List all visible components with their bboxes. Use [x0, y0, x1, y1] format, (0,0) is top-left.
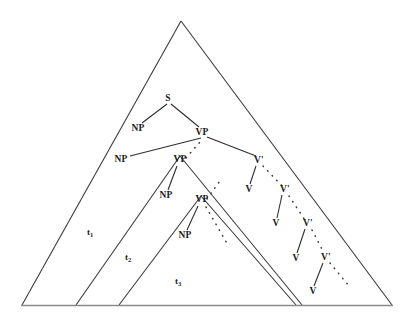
node-label-np4: NP	[178, 231, 191, 241]
stage-label-t2: t2	[125, 253, 131, 262]
syntax-tree-figure: S NP VP NP VP NP VP NP V' V V' V V' V V'…	[0, 0, 417, 326]
stage-label-t3: t3	[175, 277, 181, 286]
dots-vbar3-vbar4	[312, 230, 324, 253]
edge-vbar2-v2	[277, 195, 282, 218]
node-label-vbar2: V'	[280, 185, 290, 195]
inner-triangle-right-edge	[201, 196, 296, 305]
inner-triangle	[119, 196, 296, 305]
node-label-vbar3: V'	[303, 219, 313, 229]
edge-vbar4-v4	[314, 263, 323, 286]
stage-label-t1: t1	[87, 228, 93, 237]
node-label-vp3: VP	[195, 195, 208, 205]
edge-vp1-vbar1	[207, 137, 256, 156]
stage-label-t1-sub: 1	[90, 231, 93, 238]
edge-vp3-np4	[187, 206, 198, 230]
node-label-np2: NP	[114, 155, 127, 165]
node-label-v4: V	[309, 287, 316, 297]
outer-triangle-left-edge	[22, 21, 181, 305]
edge-vbar3-v3	[297, 229, 305, 253]
node-label-vbar1: V'	[254, 156, 264, 166]
dots-vbar4-trail	[330, 263, 349, 286]
outer-triangle-right-edge	[181, 21, 392, 305]
middle-triangle-right-edge	[180, 156, 302, 305]
dots-vbar1-vbar2	[263, 166, 282, 186]
inner-triangle-left-edge	[119, 196, 201, 305]
dots-vp2-vp3	[207, 178, 222, 199]
dots-vbar2-vbar3	[289, 196, 305, 220]
node-label-s: S	[165, 94, 170, 104]
node-label-np1: NP	[131, 124, 144, 134]
edge-s-vp1	[171, 104, 199, 127]
dots-vp3-trail	[206, 207, 228, 245]
edge-s-np1	[142, 104, 167, 123]
edge-vp2-np3	[168, 166, 177, 190]
dots-vp1-vp2	[186, 142, 200, 158]
node-label-vp2: VP	[173, 155, 186, 165]
node-label-v1: V	[245, 185, 252, 195]
node-label-v3: V	[292, 254, 299, 264]
node-label-v2: V	[272, 219, 279, 229]
node-label-np3: NP	[159, 191, 172, 201]
edge-vbar1-v1	[250, 166, 256, 184]
outer-triangle	[22, 21, 392, 305]
stage-label-t3-sub: 3	[178, 280, 181, 287]
tree-diagram-canvas	[0, 0, 417, 326]
node-label-vp1: VP	[195, 128, 208, 138]
stage-label-t2-sub: 2	[128, 256, 131, 263]
node-label-vbar4: V'	[321, 253, 331, 263]
